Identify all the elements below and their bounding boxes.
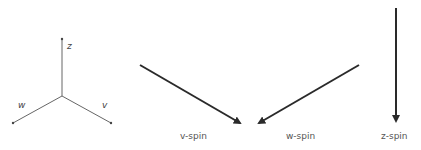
w-axis-label: w <box>18 100 25 110</box>
w-spin-label: w-spin <box>286 131 315 141</box>
axes-diagram <box>12 38 112 124</box>
v-spin-arrow <box>140 65 240 123</box>
z-spin-label: z-spin <box>381 131 408 141</box>
diagram-canvas <box>0 0 421 150</box>
v-spin-label: v-spin <box>180 131 207 141</box>
w-spin-arrow <box>259 65 359 123</box>
z-axis-label: z <box>67 41 72 51</box>
v-axis-label: v <box>102 100 107 110</box>
